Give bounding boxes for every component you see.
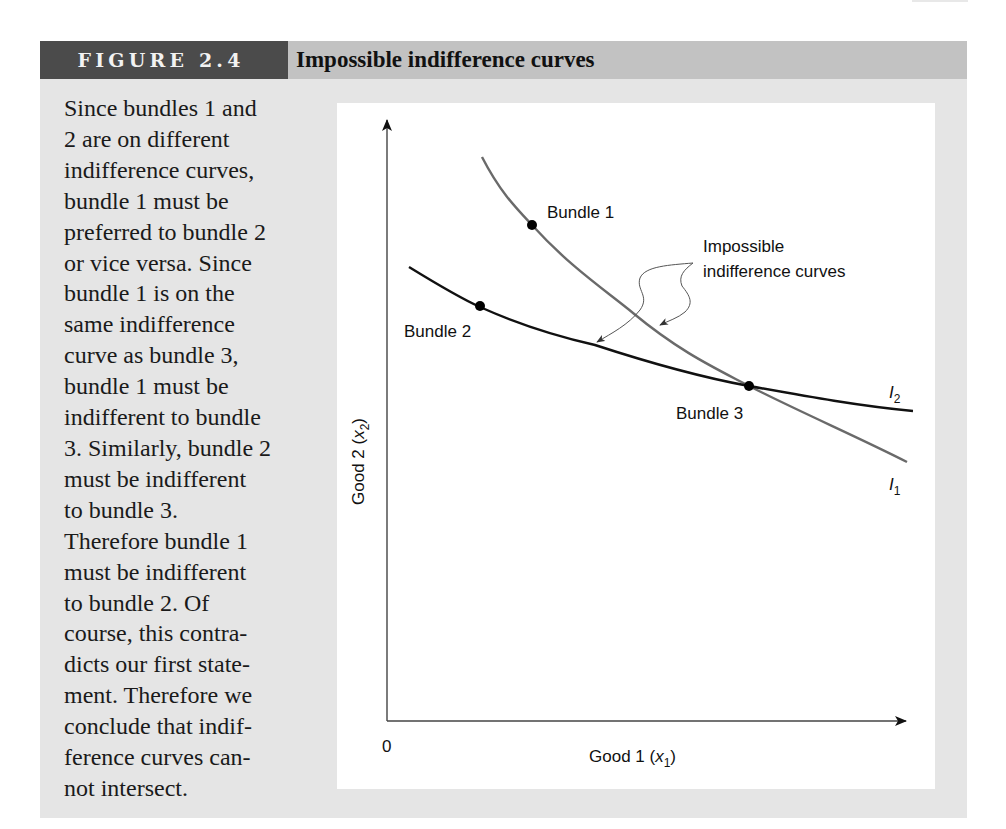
curve-i1-sub: 1 (894, 484, 901, 498)
annotation-line-2: indifference curves (703, 262, 845, 281)
caption-line: Since bundles 1 and (64, 93, 314, 124)
indifference-chart: Bundle 1 Bundle 2 Bundle 3 Impossible in… (337, 103, 935, 789)
curve-i2-sub: 2 (894, 392, 901, 406)
annotation-line-1: Impossible (703, 237, 784, 256)
caption-line: same indifference (64, 309, 314, 340)
caption-line: bundle 1 must be (64, 371, 314, 402)
y-axis-var: x (349, 430, 368, 440)
bundle-2-point (475, 301, 485, 311)
caption-line: not intersect. (64, 773, 314, 804)
y-axis-label-text: Good 2 ( (349, 439, 368, 505)
page-edge-tab (912, 0, 968, 2)
figure-caption: Since bundles 1 and 2 are on different i… (64, 93, 314, 804)
caption-line: must be indifferent (64, 464, 314, 495)
caption-line: indifferent to bundle (64, 402, 314, 433)
caption-line: to bundle 2. Of (64, 588, 314, 619)
bundle-1-point (527, 220, 537, 230)
caption-line: to bundle 3. (64, 495, 314, 526)
caption-line: bundle 1 must be (64, 186, 314, 217)
caption-line: curve as bundle 3, (64, 340, 314, 371)
caption-line: ment. Therefore we (64, 680, 314, 711)
caption-line: indifference curves, (64, 155, 314, 186)
y-axis-close: ) (349, 418, 368, 424)
bundle-3-point (744, 381, 754, 391)
caption-line: 3. Similarly, bundle 2 (64, 433, 314, 464)
caption-line: must be indifferent (64, 557, 314, 588)
caption-line: preferred to bundle 2 (64, 217, 314, 248)
caption-line: course, this contra- (64, 618, 314, 649)
caption-line: conclude that indif- (64, 711, 314, 742)
figure-number: FIGURE 2.4 (40, 41, 288, 79)
caption-line: Therefore bundle 1 (64, 526, 314, 557)
x-axis-label-text: Good 1 ( (589, 747, 655, 766)
origin-label: 0 (382, 737, 391, 756)
caption-line: ference curves can- (64, 742, 314, 773)
x-axis-var: x (654, 747, 664, 766)
caption-line: bundle 1 is on the (64, 278, 314, 309)
caption-line: 2 are on different (64, 124, 314, 155)
bundle-2-label: Bundle 2 (404, 322, 471, 341)
caption-line: or vice versa. Since (64, 248, 314, 279)
figure-title: Impossible indifference curves (296, 41, 595, 79)
chart-background (337, 103, 935, 789)
bundle-3-label: Bundle 3 (676, 404, 743, 423)
bundle-1-label: Bundle 1 (547, 203, 614, 222)
caption-line: dicts our first state- (64, 649, 314, 680)
figure-header: FIGURE 2.4 Impossible indifference curve… (40, 41, 967, 79)
x-axis-close: ) (670, 747, 676, 766)
